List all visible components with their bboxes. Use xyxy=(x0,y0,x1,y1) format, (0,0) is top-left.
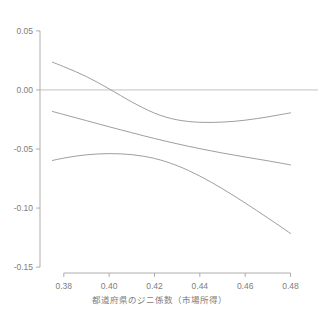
x-axis-title: 都道府県のジニ係数（市場所得） xyxy=(0,296,319,305)
series-line-upper-confidence-band xyxy=(52,62,290,122)
x-axis-tick-label: 0.46 xyxy=(225,282,265,291)
axes-group xyxy=(36,31,291,277)
series-line-lower-confidence-band xyxy=(52,154,290,234)
series-group xyxy=(52,62,290,233)
y-axis-tick-label: -0.05 xyxy=(0,145,33,154)
y-axis-tick-label: 0.00 xyxy=(0,86,33,95)
y-axis-tick-label: -0.15 xyxy=(0,263,33,272)
y-axis-tick-label: -0.10 xyxy=(0,204,33,213)
y-axis-tick-label: 0.05 xyxy=(0,27,33,36)
x-axis-tick-label: 0.40 xyxy=(89,282,129,291)
x-axis-tick-label: 0.48 xyxy=(271,282,311,291)
gam-smooth-chart: 0.050.00-0.05-0.10-0.15 0.380.400.420.44… xyxy=(0,0,319,317)
x-axis-tick-label: 0.38 xyxy=(44,282,84,291)
x-axis-tick-label: 0.44 xyxy=(180,282,220,291)
series-line-central-estimate xyxy=(52,111,290,164)
x-axis-tick-label: 0.42 xyxy=(134,282,174,291)
plot-area xyxy=(0,0,319,317)
